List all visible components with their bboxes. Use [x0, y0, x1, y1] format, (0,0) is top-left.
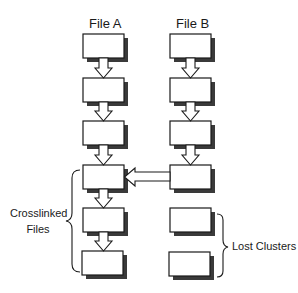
file-a-cluster-6	[82, 251, 123, 275]
file-b-cluster-1	[170, 34, 211, 58]
file-b-cluster-3	[170, 121, 211, 145]
file-a-title: File A	[89, 16, 122, 31]
file-a-cluster-3	[83, 121, 124, 145]
lost-cluster-1	[170, 208, 211, 232]
lost-clusters-brace-icon	[217, 214, 228, 277]
file-b-cluster-2	[170, 78, 211, 102]
file-a-cluster-5	[83, 208, 124, 232]
crosslinked-label: Crosslinked Files	[10, 207, 66, 235]
crosslinked-brace-icon	[66, 170, 80, 272]
file-b-cluster-4	[170, 165, 211, 189]
arrow-left-icon	[125, 168, 171, 186]
file-a-cluster-4	[83, 165, 124, 189]
file-a-cluster-2	[83, 78, 124, 102]
file-b-title: File B	[176, 16, 209, 31]
crosslinked-label-line2: Files	[10, 223, 66, 235]
lost-cluster-2	[169, 252, 210, 276]
lost-clusters-label: Lost Clusters	[232, 240, 296, 252]
file-a-cluster-1	[83, 34, 124, 58]
crosslinked-label-line1: Crosslinked	[10, 207, 66, 219]
